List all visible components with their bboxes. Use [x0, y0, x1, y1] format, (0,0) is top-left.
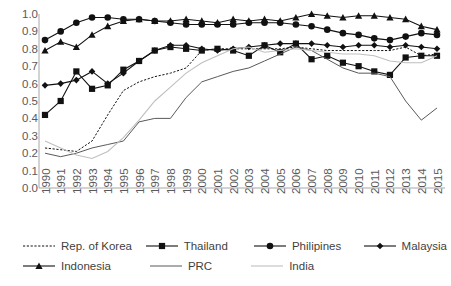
y-tick-label: 0.6	[22, 78, 38, 90]
x-tick-label: 2006	[290, 168, 302, 194]
data-point-marker	[293, 21, 300, 28]
data-point-marker	[57, 38, 64, 45]
data-point-marker	[340, 30, 347, 37]
data-point-marker	[230, 16, 237, 23]
data-point-marker	[356, 63, 362, 69]
series-line	[45, 14, 437, 51]
series-india	[45, 47, 437, 158]
data-point-marker	[340, 60, 346, 66]
data-point-marker	[387, 44, 394, 51]
x-tick-label: 1995	[118, 168, 130, 194]
data-point-marker	[418, 30, 425, 37]
y-tick-label: 0.4	[22, 112, 39, 124]
data-point-marker	[371, 35, 378, 42]
x-tick-label: 2002	[228, 168, 240, 194]
data-point-marker	[89, 86, 95, 92]
data-point-marker	[41, 47, 48, 54]
legend-swatch-line-icon	[22, 240, 56, 252]
legend-item-philipines[interactable]: Philipines	[253, 240, 341, 252]
legend-label: Rep. of Korea	[61, 240, 132, 252]
legend-item-prc[interactable]: PRC	[149, 260, 212, 272]
x-tick-label: 1999	[181, 168, 193, 194]
x-tick-label: 2008	[322, 168, 334, 194]
series-prc	[45, 47, 437, 157]
legend-label: PRC	[188, 260, 212, 272]
axis-lines	[39, 14, 445, 188]
series-rep-of-korea	[45, 47, 437, 151]
data-point-marker	[418, 53, 424, 59]
data-point-marker	[57, 28, 64, 35]
data-point-marker	[73, 77, 80, 84]
data-point-marker	[308, 10, 315, 17]
x-tick-label: 2007	[306, 168, 318, 194]
series-philipines	[42, 14, 441, 43]
x-axis-tick-labels: 1990199119921993199419951996199719981999…	[40, 168, 444, 194]
data-point-marker	[402, 33, 409, 40]
x-tick-label: 1993	[87, 168, 99, 194]
x-tick-label: 2013	[400, 168, 412, 194]
x-tick-label: 2005	[275, 168, 287, 194]
data-point-marker	[371, 42, 378, 49]
data-point-marker	[88, 31, 95, 38]
data-point-marker	[308, 56, 314, 62]
data-point-marker	[104, 14, 111, 21]
x-tick-label: 1990	[40, 168, 52, 194]
legend-label: Philipines	[292, 240, 341, 252]
data-point-marker	[73, 68, 79, 74]
data-point-marker	[261, 16, 268, 23]
data-point-marker	[340, 44, 347, 51]
x-tick-label: 1996	[134, 168, 146, 194]
data-point-marker	[277, 40, 284, 47]
x-tick-label: 2010	[353, 168, 365, 194]
x-tick-label: 1997	[149, 168, 161, 194]
x-tick-label: 2011	[369, 169, 381, 194]
data-point-marker	[183, 16, 190, 23]
legend-label: Malaysia	[402, 240, 447, 252]
x-tick-label: 2000	[196, 168, 208, 194]
x-tick-label: 1994	[102, 168, 114, 194]
data-point-marker	[246, 53, 252, 59]
x-tick-label: 1992	[71, 168, 83, 194]
legend-label: Indonesia	[61, 260, 111, 272]
legend-swatch-square-icon	[145, 240, 179, 252]
data-point-marker	[418, 44, 425, 51]
series-indonesia	[41, 10, 440, 53]
data-point-marker	[42, 37, 49, 44]
x-tick-label: 2003	[243, 168, 255, 194]
chart-legend: Rep. of KoreaThailandPhilipinesMalaysiaI…	[0, 236, 451, 286]
data-point-marker	[73, 19, 80, 26]
legend-row: Rep. of KoreaThailandPhilipinesMalaysia	[0, 236, 451, 256]
y-tick-label: 1.0	[22, 8, 38, 20]
x-tick-label: 2014	[416, 168, 428, 194]
legend-swatch-circle-icon	[253, 240, 287, 252]
y-tick-label: 0.9	[22, 25, 38, 37]
series-line	[45, 44, 437, 115]
y-tick-label: 0.8	[22, 43, 38, 55]
x-tick-label: 2001	[212, 168, 224, 194]
y-axis-tick-labels: 1.00.90.80.70.60.50.40.30.20.10.0	[22, 8, 39, 194]
x-tick-label: 1998	[165, 168, 177, 194]
legend-item-rep-of-korea[interactable]: Rep. of Korea	[22, 240, 132, 252]
y-tick-label: 0.5	[22, 95, 38, 107]
y-tick-label: 0.1	[22, 165, 38, 177]
legend-item-india[interactable]: India	[250, 260, 314, 272]
legend-swatch-line-icon	[149, 260, 183, 272]
line-chart: 1.00.90.80.70.60.50.40.30.20.10.0 199019…	[0, 0, 451, 286]
series-line	[45, 47, 437, 151]
legend-item-malaysia[interactable]: Malaysia	[363, 240, 447, 252]
y-tick-label: 0.0	[22, 182, 38, 194]
y-tick-label: 0.2	[22, 147, 38, 159]
data-point-marker	[434, 46, 441, 53]
data-point-marker	[42, 82, 49, 89]
plot-area: 1.00.90.80.70.60.50.40.30.20.10.0 199019…	[0, 0, 451, 232]
legend-swatch-line-icon	[250, 260, 284, 272]
plot-svg: 1.00.90.80.70.60.50.40.30.20.10.0 199019…	[0, 0, 451, 232]
data-point-marker	[402, 42, 409, 49]
data-point-marker	[324, 26, 331, 33]
legend-swatch-diamond-icon	[363, 240, 397, 252]
x-tick-label: 1991	[55, 168, 67, 194]
data-point-marker	[57, 80, 64, 87]
legend-item-thailand[interactable]: Thailand	[145, 240, 228, 252]
legend-swatch-triangle-icon	[22, 260, 56, 272]
legend-item-indonesia[interactable]: Indonesia	[22, 260, 111, 272]
